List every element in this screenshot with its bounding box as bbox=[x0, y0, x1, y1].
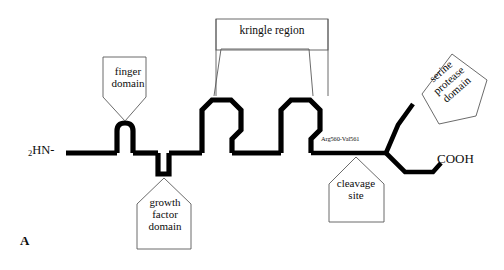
kringle-region-inner-right-leg bbox=[309, 49, 313, 96]
cleavage-site-callout-shape bbox=[329, 157, 384, 222]
growth-factor-domain-stub bbox=[158, 153, 169, 174]
kringle-2-loop bbox=[281, 100, 320, 153]
diagram-canvas bbox=[0, 0, 504, 270]
kringle-1-loop bbox=[202, 100, 241, 153]
kringle-region-inner-left-leg bbox=[214, 49, 221, 96]
serine-protease-callout-shape bbox=[422, 54, 487, 124]
finger-domain-loop bbox=[117, 123, 133, 153]
callout-outlines bbox=[103, 19, 487, 249]
kringle-region-callout-shape bbox=[216, 19, 328, 50]
backbone-c-terminal-arm bbox=[386, 153, 441, 172]
growth-factor-callout-shape bbox=[137, 178, 191, 249]
protein-backbone bbox=[66, 100, 441, 174]
tpa-domain-figure: 2HN- COOH finger domain kringle region g… bbox=[0, 0, 504, 270]
finger-domain-callout-shape bbox=[103, 57, 146, 121]
serine-protease-arm bbox=[386, 104, 413, 153]
